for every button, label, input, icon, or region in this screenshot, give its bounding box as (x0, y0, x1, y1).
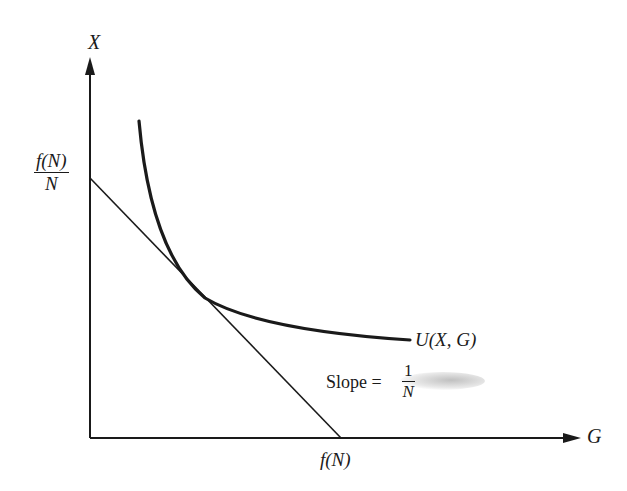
slope-label-prefix: Slope = (326, 372, 382, 393)
slope-numerator: 1 (402, 361, 415, 381)
y-axis-arrow-icon (85, 57, 95, 75)
y-intercept-label: f(N) N (34, 150, 69, 195)
diagram-canvas (0, 0, 627, 491)
slope-fraction: 1 N (402, 361, 415, 402)
x-intercept-label: f(N) (320, 449, 351, 471)
slope-denominator: N (403, 382, 414, 402)
x-axis-label: G (587, 425, 601, 448)
budget-line (90, 178, 341, 438)
x-axis-arrow-icon (563, 433, 581, 443)
y-axis-label: X (88, 31, 100, 54)
y-intercept-denominator: N (45, 173, 58, 195)
indifference-curve (139, 121, 410, 340)
y-intercept-numerator: f(N) (34, 150, 69, 172)
curve-label: U(X, G) (415, 329, 476, 351)
